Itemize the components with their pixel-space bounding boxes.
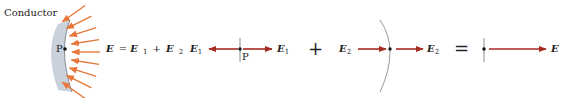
e1-panel: E1 P E1 — [189, 38, 289, 62]
conductor-label: Conductor — [4, 7, 58, 18]
e2-surface-arc — [380, 20, 390, 92]
eq-plus: + — [153, 43, 161, 54]
e1-right-label: E1 — [276, 43, 289, 56]
e1-left-label: E1 — [189, 43, 202, 56]
conductor-field-diagram: Conductor P E = E 1 + E 2 E1 P E1 + E2 — [0, 0, 570, 98]
conductor-section: Conductor P — [4, 6, 100, 99]
field-line-arrow — [70, 68, 97, 77]
field-line-arrow — [62, 6, 85, 22]
result-label: E — [550, 43, 559, 54]
equation: E = E 1 + E 2 — [105, 37, 183, 58]
eq-term2-sub: 2 — [179, 48, 183, 56]
e2-right-label: E2 — [426, 43, 439, 56]
eq-equals: = — [119, 43, 131, 54]
eq-term2: E — [165, 43, 174, 54]
eq-term1: E — [129, 43, 138, 54]
e1-point-label: P — [242, 51, 249, 62]
field-line-arrow — [71, 40, 99, 44]
e2-point-dot — [388, 47, 391, 50]
field-line-arrow — [67, 16, 92, 29]
e2-left-label: E2 — [338, 43, 351, 56]
field-line-arrow — [70, 28, 97, 36]
point-p-dot — [63, 47, 67, 51]
result-panel: E — [482, 38, 559, 62]
equals-sign: = — [454, 38, 469, 59]
e2-panel: E2 E2 — [338, 20, 439, 92]
field-line-arrow — [71, 60, 99, 64]
point-p-label: P — [56, 43, 63, 54]
eq-lhs: E — [105, 43, 114, 54]
plus-sign: + — [308, 38, 323, 59]
eq-term1-sub: 1 — [143, 48, 147, 56]
result-point-dot — [482, 47, 485, 50]
